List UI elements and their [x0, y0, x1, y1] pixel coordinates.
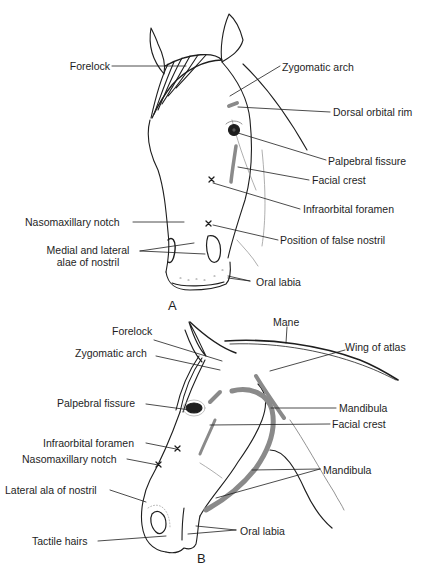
label-nasomaxillary-notch-a: Nasomaxillary notch — [25, 216, 120, 228]
label-alae-nostril-a: Medial and lateral alae of nostril — [36, 244, 140, 268]
panel-a-head-outline — [148, 14, 307, 290]
label-alae-line1: Medial and lateral — [36, 244, 140, 256]
label-infraorbital-foramen-a: Infraorbital foramen — [303, 203, 394, 215]
label-tactile-hairs-b: Tactile hairs — [32, 535, 87, 547]
label-lateral-ala-b: Lateral ala of nostril — [5, 484, 97, 496]
label-facial-crest-b: Facial crest — [332, 418, 386, 430]
label-forelock-a: Forelock — [44, 60, 110, 72]
label-dorsal-orbital-rim-a: Dorsal orbital rim — [333, 106, 412, 118]
label-false-nostril-a: Position of false nostril — [280, 234, 385, 246]
label-mane-b: Mane — [273, 316, 299, 328]
label-forelock-b: Forelock — [112, 325, 152, 337]
label-mandibula-upper-b: Mandibula — [339, 402, 387, 414]
label-mandibula-lower-b: Mandibula — [323, 464, 371, 476]
label-oral-labia-b: Oral labia — [240, 525, 285, 537]
label-nasomaxillary-notch-b: Nasomaxillary notch — [22, 453, 117, 465]
panel-letter-b: B — [197, 551, 206, 566]
label-infraorbital-foramen-b: Infraorbital foramen — [43, 437, 134, 449]
label-zygomatic-arch-b: Zygomatic arch — [75, 347, 147, 359]
label-palpebral-fissure-a: Palpebral fissure — [328, 155, 406, 167]
panel-b-head-outline — [141, 322, 398, 553]
label-oral-labia-a: Oral labia — [256, 276, 301, 288]
panel-letter-a: A — [168, 298, 177, 313]
label-palpebral-fissure-b: Palpebral fissure — [57, 397, 135, 409]
panel-b-leader-lines — [98, 327, 345, 541]
label-alae-line2: alae of nostril — [36, 256, 140, 268]
label-wing-of-atlas-b: Wing of atlas — [345, 341, 406, 353]
label-zygomatic-arch-a: Zygomatic arch — [282, 61, 354, 73]
label-facial-crest-a: Facial crest — [312, 174, 366, 186]
